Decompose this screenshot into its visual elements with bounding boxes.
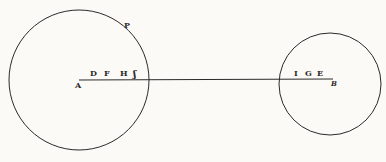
label-a: A bbox=[74, 80, 82, 90]
label-i: I bbox=[294, 68, 298, 78]
diagram-svg: A D F H ʃ P I G E B bbox=[0, 0, 386, 162]
diagram-canvas: A D F H ʃ P I G E B bbox=[0, 0, 386, 162]
segment-ab bbox=[79, 79, 333, 80]
right-circle bbox=[279, 33, 381, 135]
label-h: H bbox=[120, 68, 128, 78]
label-b: B bbox=[330, 79, 337, 88]
label-s: ʃ bbox=[132, 68, 137, 79]
label-p: P bbox=[124, 20, 130, 30]
label-d: D bbox=[90, 68, 97, 78]
label-e: E bbox=[317, 68, 323, 78]
label-f: F bbox=[104, 68, 110, 78]
label-g: G bbox=[305, 68, 312, 78]
